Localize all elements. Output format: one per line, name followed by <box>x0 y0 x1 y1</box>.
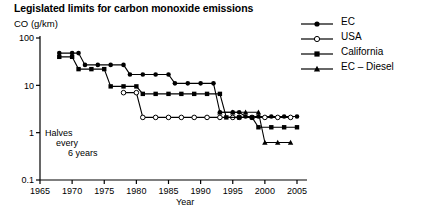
data-point-filled-circle <box>243 114 248 119</box>
data-point-filled-square <box>295 125 299 129</box>
data-point-filled-square <box>250 115 254 119</box>
data-point-open-circle <box>179 115 184 120</box>
data-point-filled-circle <box>153 72 158 77</box>
data-point-filled-square <box>153 92 157 96</box>
x-tick-label: 1965 <box>30 186 50 196</box>
data-point-filled-square <box>218 92 222 96</box>
series-line-usa <box>124 93 291 118</box>
legend-item-ec-diesel[interactable]: EC – Diesel <box>300 59 394 74</box>
data-point-filled-circle <box>76 51 81 56</box>
data-point-filled-square <box>166 92 170 96</box>
data-point-open-circle <box>192 115 197 120</box>
legend-item-california[interactable]: California <box>300 44 394 59</box>
data-point-filled-circle <box>108 63 113 68</box>
data-point-filled-circle <box>83 63 88 68</box>
data-point-open-circle <box>288 115 293 120</box>
data-point-open-circle <box>134 90 139 95</box>
x-tick-label: 1990 <box>191 186 211 196</box>
data-point-filled-circle <box>198 81 203 86</box>
chart-legend: ECUSACaliforniaEC – Diesel <box>300 14 394 74</box>
legend-marker-filled-square-icon <box>300 46 334 58</box>
series-line-ec <box>59 53 297 116</box>
x-tick-label: 2005 <box>287 186 307 196</box>
data-point-open-circle <box>153 115 158 120</box>
data-point-filled-square <box>70 55 74 59</box>
annotation-line-3: 6 years <box>68 148 98 159</box>
data-point-filled-square <box>269 125 273 129</box>
data-point-filled-square <box>205 92 209 96</box>
x-tick-label: 1995 <box>223 186 243 196</box>
data-point-filled-square <box>192 92 196 96</box>
legend-marker-open-circle-icon <box>300 31 334 43</box>
x-axis-label: Year <box>176 197 194 205</box>
data-point-filled-square <box>134 84 138 88</box>
x-tick-label: 1970 <box>62 186 82 196</box>
data-point-filled-square <box>141 92 145 96</box>
legend-label: EC <box>341 16 355 27</box>
data-point-open-circle <box>166 115 171 120</box>
data-point-filled-circle <box>185 81 190 86</box>
data-point-filled-circle <box>295 114 300 119</box>
data-point-filled-circle <box>282 114 287 119</box>
data-point-open-circle <box>205 115 210 120</box>
data-point-filled-square <box>179 92 183 96</box>
y-tick-label: 100 <box>19 33 34 43</box>
data-point-filled-circle <box>211 81 216 86</box>
x-tick-label: 1985 <box>158 186 178 196</box>
legend-label: California <box>341 46 383 57</box>
data-point-filled-square <box>282 125 286 129</box>
data-point-filled-circle <box>96 63 101 68</box>
data-point-open-circle <box>218 115 223 120</box>
x-tick-label: 2000 <box>255 186 275 196</box>
annotation-line-2: every <box>56 138 78 149</box>
data-point-filled-circle <box>121 63 126 68</box>
chart-container: Legislated limits for carbon monoxide em… <box>0 0 432 205</box>
legend-label: USA <box>341 31 362 42</box>
data-point-filled-circle <box>166 72 171 77</box>
data-point-filled-square <box>108 84 112 88</box>
legend-item-usa[interactable]: USA <box>300 29 394 44</box>
data-point-filled-square <box>121 84 125 88</box>
annotation-line-1: Halves <box>45 128 73 139</box>
y-tick-label: 1 <box>29 128 34 138</box>
data-point-filled-square <box>102 67 106 71</box>
data-point-filled-circle <box>269 114 274 119</box>
data-point-filled-circle <box>141 72 146 77</box>
legend-marker-filled-triangle-icon <box>300 61 334 73</box>
data-point-open-circle <box>121 90 126 95</box>
data-point-open-circle <box>275 115 280 120</box>
data-point-filled-square <box>76 67 80 71</box>
legend-label: EC – Diesel <box>341 61 394 72</box>
data-point-filled-square <box>57 55 61 59</box>
data-point-filled-circle <box>128 72 133 77</box>
data-point-filled-square <box>256 125 260 129</box>
x-tick-label: 1980 <box>126 186 146 196</box>
data-point-filled-square <box>224 115 228 119</box>
y-tick-label: 0.1 <box>21 175 34 185</box>
legend-item-ec[interactable]: EC <box>300 14 394 29</box>
x-tick-label: 1975 <box>94 186 114 196</box>
data-point-open-circle <box>263 115 268 120</box>
data-point-open-circle <box>141 115 146 120</box>
y-tick-label: 10 <box>24 81 34 91</box>
legend-marker-filled-circle-icon <box>300 16 334 28</box>
data-point-filled-square <box>237 115 241 119</box>
data-point-filled-square <box>89 67 93 71</box>
data-point-filled-circle <box>173 81 178 86</box>
